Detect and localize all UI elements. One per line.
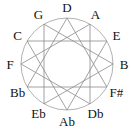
star-line [44,64,113,104]
star-line [27,18,67,87]
note-label: F# [109,85,123,100]
note-label: G [34,7,43,22]
note-label: E [112,28,120,43]
outer-circle [21,18,113,110]
circle-of-fifths-diagram: DAEBF#DbAbEbBbFCG [0,0,132,134]
note-label: Bb [10,85,25,100]
star-lines [21,18,113,110]
star-line [27,41,67,110]
note-label: C [13,28,22,43]
star-line [44,24,113,64]
note-label: F [6,57,13,72]
star-line [67,18,107,87]
note-label: D [62,0,71,15]
star-line [67,41,107,110]
note-label: B [120,57,129,72]
note-label: Ab [59,114,75,129]
note-label: Eb [31,106,45,121]
note-label: Db [88,106,104,121]
star-line [21,64,90,104]
star-line [21,24,90,64]
note-label: A [91,7,101,22]
